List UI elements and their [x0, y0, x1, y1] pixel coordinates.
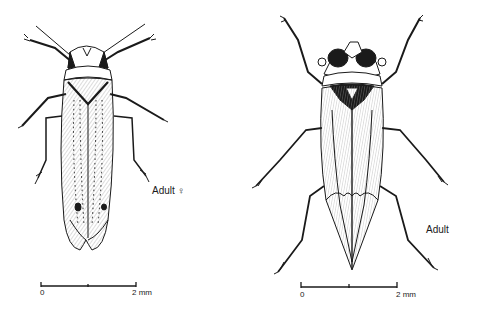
scale-bar-line	[40, 280, 140, 290]
left-scale-start: 0	[40, 288, 44, 297]
right-scale-start: 0	[300, 290, 304, 299]
left-scale-end: 2 mm	[132, 288, 152, 297]
right-scale-bar	[300, 280, 400, 290]
leafhopper-female-drawing	[0, 0, 200, 255]
right-scale-end: 2 mm	[396, 290, 416, 299]
left-scale-bar	[40, 280, 140, 290]
left-insect-illustration	[0, 0, 200, 255]
scale-bar-line	[300, 280, 400, 290]
right-figure-label: Adult	[426, 224, 449, 235]
left-figure-label: Adult ♀	[152, 185, 185, 196]
